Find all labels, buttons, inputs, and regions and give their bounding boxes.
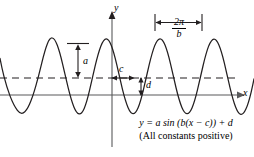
phase-shift-annotation (111, 75, 134, 80)
period-denominator: b (164, 29, 194, 40)
constants-note-text: (All constants positive) (120, 130, 252, 143)
period-label: 2π b (164, 17, 194, 39)
y-axis-label: y (114, 3, 118, 13)
amplitude-arrowhead-down-icon (75, 72, 81, 78)
sine-transformation-figure: y x a c d 2π b y = a sin (b(x − c)) + d … (0, 0, 254, 157)
period-arrowhead-left-icon (155, 20, 161, 25)
x-axis-label: x (243, 88, 247, 98)
amplitude-arrowhead-up-icon (75, 44, 81, 50)
vertical-shift-arrowhead-up-icon (138, 77, 143, 82)
phase-shift-label: c (119, 64, 123, 74)
equation-text: y = a sin (b(x − c)) + d (120, 117, 252, 130)
x-axis (0, 92, 245, 99)
phase-shift-arrowhead-right-icon (129, 75, 135, 80)
vertical-shift-label: d (146, 80, 151, 90)
caption-block: y = a sin (b(x − c)) + d (All constants … (120, 117, 252, 142)
sine-curve (0, 38, 254, 114)
period-arrowhead-right-icon (196, 20, 202, 25)
period-numerator: 2π (164, 17, 194, 28)
amplitude-label: a (83, 56, 88, 66)
